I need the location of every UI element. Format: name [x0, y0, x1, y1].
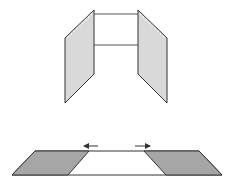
box-net-diagram: [0, 0, 238, 186]
folded-figure: [65, 10, 167, 103]
left-side-panel: [65, 10, 94, 103]
right-side-panel: [138, 10, 167, 103]
unfolded-figure: [12, 146, 222, 175]
